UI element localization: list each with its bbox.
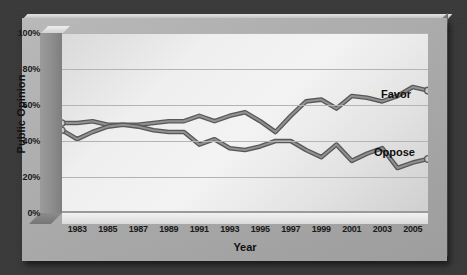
- gridline: [62, 177, 428, 178]
- gridline: [62, 33, 428, 34]
- x-tick-label: 1997: [274, 224, 308, 234]
- y-axis-column: [40, 33, 62, 213]
- x-axis-title: Year: [62, 241, 428, 253]
- series-label-favor: Favor: [381, 88, 411, 100]
- x-tick-label: 1985: [91, 224, 125, 234]
- x-tick-label: 1991: [182, 224, 216, 234]
- x-tick-label: 1999: [304, 224, 338, 234]
- plot-floor: [62, 213, 428, 224]
- x-tick-label: 1983: [60, 224, 94, 234]
- x-tick-label: 1989: [152, 224, 186, 234]
- x-tick-label: 2001: [335, 224, 369, 234]
- series-label-oppose: Oppose: [374, 146, 415, 158]
- series-start-marker: [62, 127, 65, 133]
- y-tick-label: 0%: [0, 208, 40, 218]
- y-axis-title: Public Opinion: [15, 64, 27, 164]
- y-tick-label: 20%: [0, 172, 40, 182]
- x-tick-label: 2003: [365, 224, 399, 234]
- y-tick-label: 100%: [0, 28, 40, 38]
- gridline: [62, 105, 428, 106]
- series-end-marker: [425, 87, 428, 94]
- x-tick-label: 1993: [213, 224, 247, 234]
- series-lines: [62, 33, 428, 213]
- chart-screenshot: 100%80%60%40%20%0% 198319851987198919911…: [0, 0, 467, 275]
- x-tick-label: 1995: [243, 224, 277, 234]
- gridline: [62, 69, 428, 70]
- x-tick-labels: 1983198519871989199119931995199719992001…: [0, 224, 467, 238]
- x-tick-label: 1987: [121, 224, 155, 234]
- series-start-marker: [62, 120, 65, 126]
- x-tick-label: 2005: [396, 224, 430, 234]
- gridline: [62, 141, 428, 142]
- series-end-marker: [425, 156, 428, 163]
- plot-area: [62, 33, 428, 213]
